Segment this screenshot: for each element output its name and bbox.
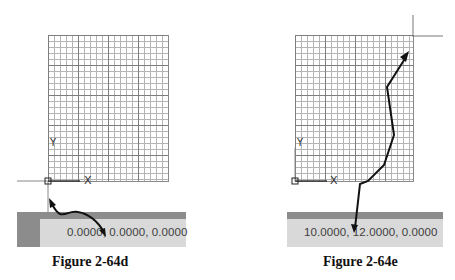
ucs-icon (292, 148, 327, 184)
x-axis-label: X (330, 174, 338, 187)
y-axis-label: Y (296, 137, 304, 148)
arrow-icon (351, 51, 409, 233)
right-figure-overlay: X Y (0, 0, 455, 280)
crosshair-cursor (412, 15, 443, 36)
